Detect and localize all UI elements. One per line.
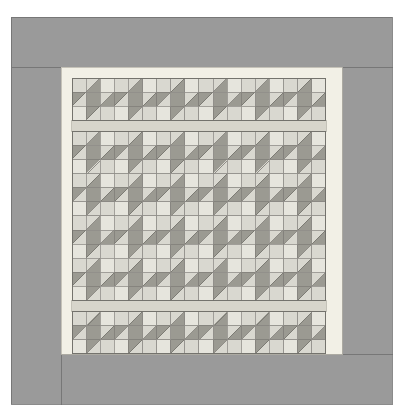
star-block (114, 78, 156, 120)
patch-plain (199, 78, 213, 92)
patch-plain (269, 106, 283, 120)
patch-plain (100, 160, 114, 174)
patch-plain (157, 160, 171, 174)
patch-plain (199, 174, 213, 188)
outer-border-bottom (61, 354, 392, 404)
patch-plain (143, 340, 157, 354)
patch-plain (298, 326, 312, 340)
patch-plain (157, 174, 171, 188)
star-block (157, 258, 199, 300)
patch-plain (128, 326, 142, 340)
patch-plain (171, 326, 185, 340)
star-block (157, 312, 199, 354)
patch-plain (312, 312, 326, 326)
quilt-canvas (0, 0, 400, 420)
patch-plain (185, 340, 199, 354)
patch-plain (255, 145, 269, 159)
patch-plain (241, 160, 255, 174)
patch-plain (72, 174, 86, 188)
patch-plain (241, 202, 255, 216)
patch-plain (86, 230, 100, 244)
patch-plain (128, 272, 142, 286)
patch-plain (185, 244, 199, 258)
patch-plain (185, 216, 199, 230)
patch-plain (185, 312, 199, 326)
star-block (114, 258, 156, 300)
star-block (284, 258, 326, 300)
patch-plain (128, 188, 142, 202)
patch-plain (72, 340, 86, 354)
patch-plain (199, 340, 213, 354)
patch-plain (157, 78, 171, 92)
patch-plain (100, 174, 114, 188)
patch-plain (157, 106, 171, 120)
patch-plain (114, 160, 128, 174)
patch-plain (114, 216, 128, 230)
patch-plain (199, 286, 213, 300)
patch-plain (269, 202, 283, 216)
patch-plain (157, 244, 171, 258)
patch-plain (128, 145, 142, 159)
patch-plain (241, 106, 255, 120)
patch-plain (185, 160, 199, 174)
star-block (157, 174, 199, 216)
patch-plain (269, 78, 283, 92)
patch-plain (199, 244, 213, 258)
patch-plain (284, 106, 298, 120)
sashing-strip-2 (72, 301, 327, 312)
patch-plain (298, 92, 312, 106)
patch-plain (269, 286, 283, 300)
patch-plain (213, 188, 227, 202)
patch-plain (241, 216, 255, 230)
patch-plain (312, 258, 326, 272)
patch-plain (284, 340, 298, 354)
patch-plain (114, 131, 128, 145)
patch-plain (298, 272, 312, 286)
patch-plain (255, 326, 269, 340)
quilt-diagram (0, 0, 400, 420)
patch-plain (199, 258, 213, 272)
star-block (241, 312, 283, 354)
patch-plain (72, 160, 86, 174)
patch-plain (312, 244, 326, 258)
patch-plain (213, 145, 227, 159)
patch-plain (86, 145, 100, 159)
patch-plain (227, 174, 241, 188)
star-block (241, 78, 283, 120)
patch-plain (255, 272, 269, 286)
star-block (114, 174, 156, 216)
patch-plain (199, 202, 213, 216)
patch-plain (143, 258, 157, 272)
patch-plain (72, 258, 86, 272)
patch-plain (143, 174, 157, 188)
patch-plain (86, 272, 100, 286)
patch-plain (143, 131, 157, 145)
patch-plain (241, 286, 255, 300)
patch-plain (241, 258, 255, 272)
patch-plain (157, 131, 171, 145)
patch-plain (241, 131, 255, 145)
star-block (284, 312, 326, 354)
patch-plain (157, 216, 171, 230)
patch-plain (86, 92, 100, 106)
star-block (199, 78, 241, 120)
star-block (199, 258, 241, 300)
patch-plain (284, 286, 298, 300)
patch-plain (312, 174, 326, 188)
patch-plain (312, 202, 326, 216)
patch-plain (298, 230, 312, 244)
patch-plain (227, 244, 241, 258)
patch-plain (241, 174, 255, 188)
patch-plain (143, 312, 157, 326)
patch-plain (185, 286, 199, 300)
star-block (199, 174, 241, 216)
star-block (72, 174, 114, 216)
patch-plain (213, 272, 227, 286)
patch-plain (86, 188, 100, 202)
patch-plain (143, 202, 157, 216)
patch-plain (298, 145, 312, 159)
patch-plain (185, 174, 199, 188)
patch-plain (185, 78, 199, 92)
patch-plain (255, 230, 269, 244)
patch-plain (255, 92, 269, 106)
